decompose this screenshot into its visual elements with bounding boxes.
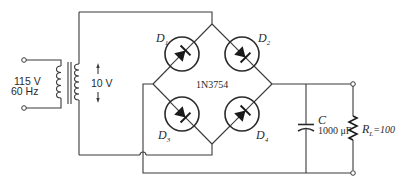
- wire-top: [79, 12, 212, 24]
- bridge-rectifier-circuit: 115 V 60 Hz 10 V: [0, 0, 407, 187]
- bridge-part-number: 1N3754: [196, 79, 228, 90]
- secondary-voltage-label: 10 V: [91, 77, 113, 89]
- diode-d2-label: D2: [257, 31, 271, 47]
- diode-d1-label: D1: [155, 31, 168, 47]
- input-terminal-bottom[interactable]: [22, 106, 27, 111]
- transformer-secondary-coil: [75, 12, 80, 155]
- diode-d3-label: D3: [157, 128, 171, 144]
- load-resistor-label: RL=100: [361, 122, 395, 138]
- output-terminal-negative[interactable]: [351, 171, 356, 176]
- capacitor-value: 1000 μF: [318, 125, 352, 136]
- transformer-primary-coil: [57, 66, 62, 98]
- capacitor: [298, 84, 314, 173]
- diode-d4-label: D4: [255, 128, 269, 144]
- transformer-core: [68, 62, 71, 104]
- source-frequency-label: 60 Hz: [11, 85, 38, 97]
- diode-d2: [225, 37, 259, 71]
- input-terminal-top[interactable]: [22, 58, 27, 63]
- diode-d3: [165, 97, 199, 131]
- wire-bottom-right: [146, 144, 212, 155]
- diode-d4: [225, 97, 259, 131]
- output-terminal-positive[interactable]: [351, 82, 356, 87]
- diode-d1: [165, 37, 199, 71]
